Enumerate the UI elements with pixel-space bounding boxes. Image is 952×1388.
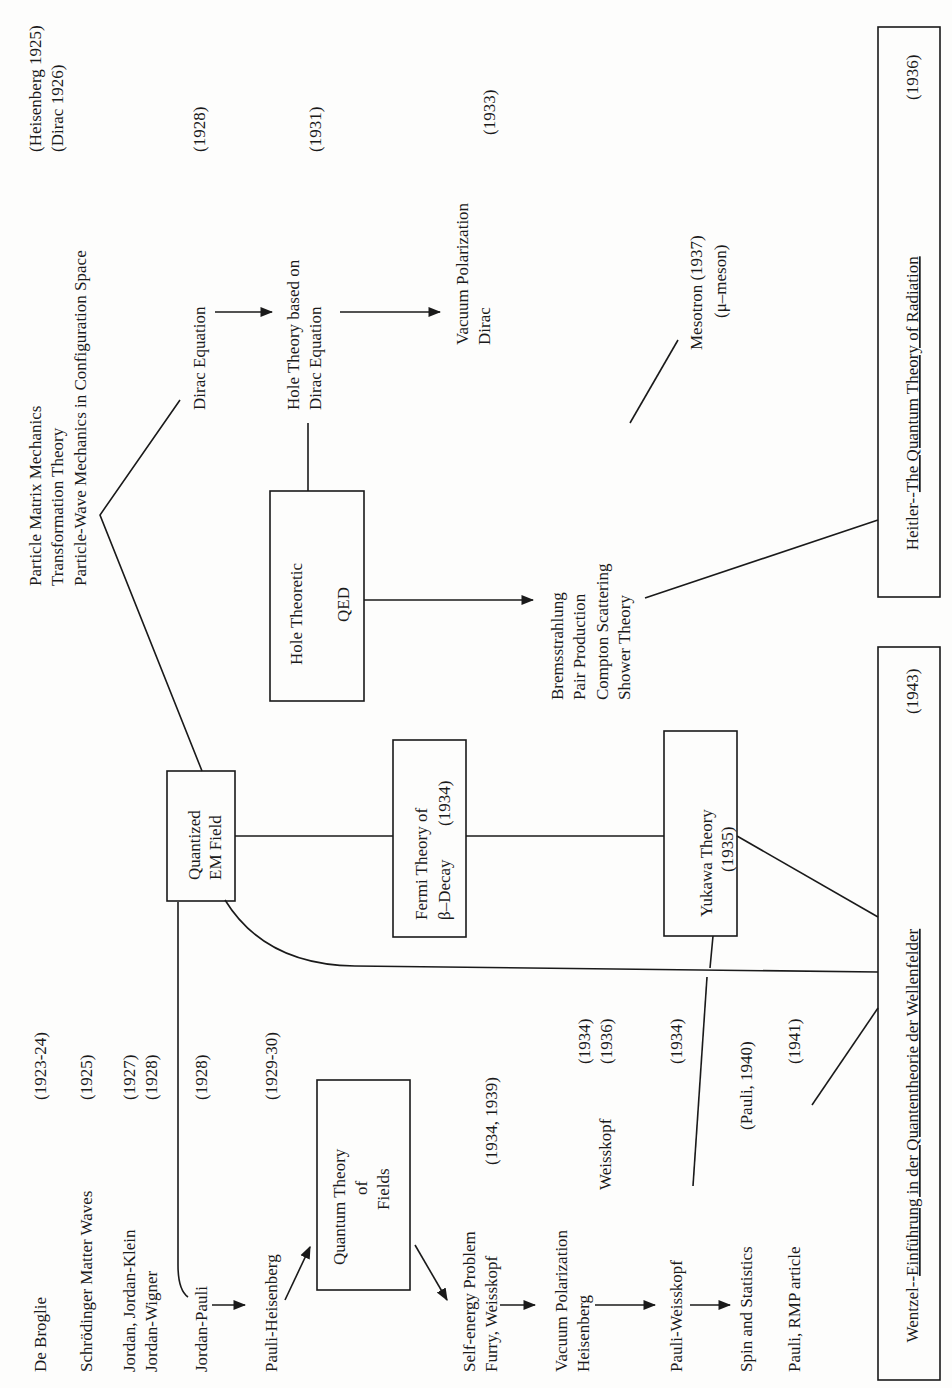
- heitler-year: (1936): [903, 55, 922, 100]
- jordan-pauli-year: (1928): [192, 1055, 211, 1100]
- mesotron-line2: (μ–meson): [711, 245, 730, 318]
- rmp-article-year: (1941): [785, 1019, 804, 1064]
- arrow-qtf-to-self-energy: [415, 1245, 447, 1300]
- yukawa-line2: (1935): [718, 827, 737, 872]
- wentzel-title: Einführung in der Quantentheorie der Wel…: [903, 928, 922, 1275]
- wentzel-prefix: Wentzel--: [903, 1276, 922, 1343]
- line-pw-to-yukawa: [693, 977, 707, 1186]
- hole-theory-line2: Dirac Equation: [306, 306, 325, 410]
- jordan-klein-label: Jordan, Jordan-Klein: [120, 1229, 139, 1372]
- heitler-title: The Quantum Theory of Radiation: [903, 256, 922, 492]
- box-fermi-beta-decay: Fermi Theory of β–Decay (1934): [393, 740, 466, 937]
- self-energy-year: (1934, 1939): [482, 1077, 501, 1165]
- box-heitler: Heitler--The Quantum Theory of Radiation…: [878, 27, 940, 597]
- line-yukawa-to-pw: [710, 936, 713, 968]
- qem-line1: Quantized: [185, 810, 204, 880]
- line-jp-to-qem: [178, 902, 188, 1297]
- top-column: Particle Matrix Mechanics (Heisenberg 19…: [26, 25, 90, 586]
- shower-theory-label: Shower Theory: [615, 595, 634, 700]
- box-quantum-theory-of-fields: Quantum Theory of Fields: [317, 1080, 410, 1290]
- box-yukawa-theory: Yukawa Theory (1935): [664, 731, 737, 936]
- box-quantized-em-field: Quantized EM Field: [167, 771, 235, 901]
- qtf-line2: of: [352, 1181, 371, 1196]
- line-processes-to-mesotron: [630, 340, 678, 423]
- box-hole-theoretic-qed: Hole Theoretic QED: [270, 491, 364, 701]
- vacuum-pol-label: Vacuum Polarization: [552, 1229, 571, 1372]
- vacuum-pol-dirac-line1: Vacuum Polarization: [453, 202, 472, 345]
- jordan-wigner-label: Jordan-Wigner: [142, 1270, 161, 1372]
- hole-theory-line1: Hole Theory based on: [284, 259, 303, 410]
- pauli-weisskopf-year: (1934): [667, 1019, 686, 1064]
- vacuum-pol-year-1934: (1934): [575, 1019, 594, 1064]
- pair-production-label: Pair Production: [570, 593, 589, 700]
- spin-statistics-label: Spin and Statistics: [737, 1246, 756, 1372]
- weisskopf-label: Weisskopf: [596, 1118, 615, 1190]
- weisskopf-year: (1936): [597, 1019, 616, 1064]
- line-rmp-to-wentzel: [812, 1008, 878, 1105]
- de-broglie-year: (1923-24): [31, 1032, 50, 1100]
- box-wentzel: Wentzel--Einführung in der Quantentheori…: [878, 647, 940, 1380]
- jordan-wigner-year: (1928): [142, 1055, 161, 1100]
- fermi-year: (1934): [435, 781, 454, 826]
- de-broglie-label: De Broglie: [31, 1297, 50, 1372]
- compton-scattering-label: Compton Scattering: [593, 563, 612, 700]
- transformation-year: (Dirac 1926): [48, 65, 67, 152]
- schrodinger-year: (1925): [77, 1055, 96, 1100]
- jordan-pauli-label: Jordan-Pauli: [192, 1286, 211, 1372]
- dirac-equation-label: Dirac Equation: [190, 306, 209, 410]
- bremsstrahlung-label: Bremsstrahlung: [548, 592, 567, 700]
- arrow-ph-to-qtf: [285, 1247, 310, 1300]
- line-yukawa-to-wentzel: [737, 836, 878, 917]
- qft-history-diagram: De Broglie (1923-24) Schrödinger Matter …: [0, 0, 952, 1388]
- wentzel-year: (1943): [903, 669, 922, 714]
- fermi-line2: β–Decay: [435, 859, 454, 920]
- wentzel-text: Wentzel--Einführung in der Quantentheori…: [903, 908, 922, 1372]
- particle-matrix-year: (Heisenberg 1925): [26, 25, 45, 152]
- yukawa-line1: Yukawa Theory: [697, 809, 716, 917]
- pauli-heisenberg-label: Pauli-Heisenberg: [262, 1254, 281, 1372]
- heitler-prefix: Heitler--: [903, 492, 922, 551]
- hole-qed-line2: QED: [334, 587, 353, 622]
- pauli-heisenberg-year: (1929-30): [262, 1032, 281, 1100]
- vacuum-pol-dirac-year: (1933): [480, 90, 499, 135]
- vacuum-pol-dirac-line2: Dirac: [475, 307, 494, 345]
- hole-qed-line1: Hole Theoretic: [287, 562, 306, 665]
- jordan-klein-year: (1927): [120, 1055, 139, 1100]
- pauli-weisskopf-label: Pauli-Weisskopf: [667, 1260, 686, 1372]
- qem-line2: EM Field: [206, 815, 225, 880]
- dirac-equation-year: (1928): [190, 107, 209, 152]
- particle-matrix-label: Particle Matrix Mechanics: [26, 406, 45, 586]
- qtf-line1: Quantum Theory: [330, 1148, 349, 1265]
- mesotron-line1: Mesotron (1937): [687, 235, 706, 350]
- line-qem-curve-to-wentzel: [225, 900, 878, 972]
- spin-statistics-year: (Pauli, 1940): [737, 1041, 756, 1130]
- heitler-text: Heitler--The Quantum Theory of Radiation: [903, 235, 922, 580]
- configuration-space-label: Particle-Wave Mechanics in Configuration…: [71, 250, 90, 586]
- schrodinger-label: Schrödinger Matter Waves: [77, 1191, 96, 1373]
- transformation-label: Transformation Theory: [48, 427, 67, 586]
- line-shower-to-heitler: [645, 520, 878, 598]
- self-energy-label: Self-energy Problem: [460, 1231, 479, 1372]
- fermi-line1: Fermi Theory of: [412, 808, 431, 920]
- left-column: De Broglie (1923-24) Schrödinger Matter …: [31, 1019, 804, 1372]
- furry-weisskopf-label: Furry, Weisskopf: [482, 1255, 501, 1372]
- qtf-line3: Fields: [374, 1168, 393, 1210]
- rmp-article-label: Pauli, RMP article: [785, 1247, 804, 1372]
- hole-theory-year: (1931): [306, 107, 325, 152]
- heisenberg-label: Heisenberg: [574, 1294, 593, 1372]
- line-qem-to-fork: [100, 400, 202, 771]
